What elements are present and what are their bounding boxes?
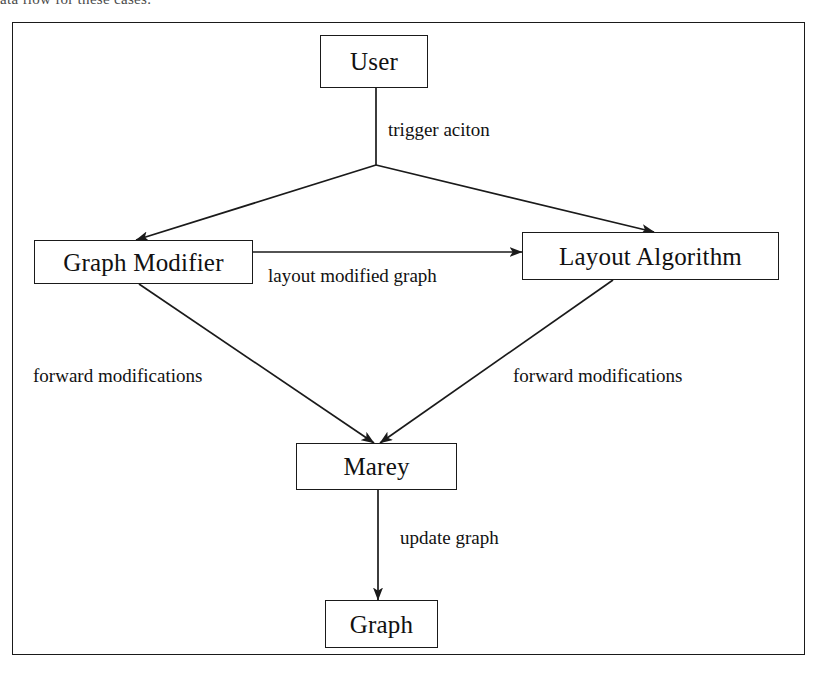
edge-modifier-to-marey [139, 284, 374, 443]
node-layout-algorithm: Layout Algorithm [522, 232, 779, 280]
node-user: User [320, 35, 428, 88]
node-graph-modifier: Graph Modifier [34, 240, 253, 284]
edge-label-update-graph: update graph [400, 528, 499, 547]
node-graph: Graph [325, 600, 438, 648]
edge-label-forward-modifications-right: forward modifications [513, 366, 682, 385]
edge-label-forward-modifications-left: forward modifications [33, 366, 202, 385]
diagram-edges-canvas [0, 0, 817, 681]
node-user-label: User [350, 49, 398, 74]
node-marey-label: Marey [343, 454, 409, 479]
node-graph-modifier-label: Graph Modifier [63, 250, 223, 275]
node-layout-algorithm-label: Layout Algorithm [559, 244, 742, 269]
node-graph-label: Graph [350, 612, 413, 637]
edge-user-to-modifier [136, 165, 376, 240]
edge-label-trigger-action: trigger aciton [388, 120, 490, 139]
edge-user-to-layout [376, 165, 654, 232]
edge-layout-to-marey [380, 280, 613, 443]
node-marey: Marey [296, 443, 457, 490]
edge-label-layout-modified-graph: layout modified graph [268, 266, 437, 285]
